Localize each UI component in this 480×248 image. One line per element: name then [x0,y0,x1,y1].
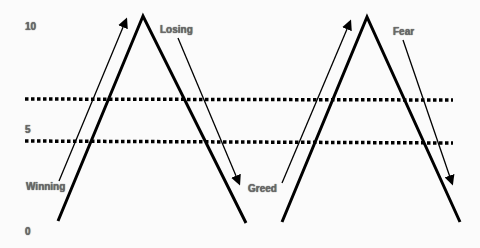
fear-label: Fear [393,27,414,37]
losing-label: Losing [160,25,193,35]
y-tick-0: 0 [25,227,31,237]
y-tick-10: 10 [25,22,36,32]
greed-arrow-icon [282,22,350,183]
upper-dotted-line [25,99,453,100]
losing-arrow-icon [178,38,239,183]
cycle-diagram [0,0,480,248]
greed-label: Greed [248,184,277,194]
winning-label: Winning [26,182,65,192]
first-cycle-line [58,16,246,223]
y-tick-5: 5 [25,125,31,135]
